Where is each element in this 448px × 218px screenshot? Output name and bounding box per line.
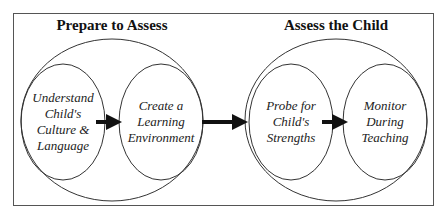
step-label-probe: Probe for Child's Strengths [249,98,333,146]
step-label-understand: Understand Child's Culture & Language [21,90,105,154]
step-label-create: Create a Learning Environment [119,98,203,146]
group-title-prepare: Prepare to Assess [12,17,212,34]
group-title-assess: Assess the Child [236,17,436,34]
step-label-monitor: Monitor During Teaching [343,98,427,146]
